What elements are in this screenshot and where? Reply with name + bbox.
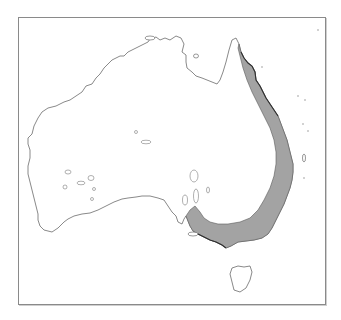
- lake-frome: [207, 187, 210, 193]
- lake-carnegie: [77, 181, 85, 185]
- lake-cowan: [91, 198, 94, 201]
- lake-eyre: [190, 170, 198, 182]
- reef-speck: [261, 66, 263, 68]
- lake-gairdner: [183, 195, 188, 205]
- lake-torrens: [194, 189, 199, 203]
- lake-mackay: [135, 131, 138, 134]
- reef-speck: [297, 95, 299, 97]
- reef-speck: [317, 29, 319, 31]
- melville-island: [145, 36, 155, 40]
- reef-speck: [307, 130, 309, 132]
- tasmania: [230, 266, 252, 292]
- fraser-island: [303, 154, 306, 162]
- lake-amadeus: [141, 140, 151, 144]
- lake-wells: [65, 170, 71, 174]
- lake-barlee: [63, 185, 67, 189]
- reef-speck: [304, 99, 306, 101]
- kangaroo-island: [188, 232, 198, 236]
- lake-ballard: [93, 188, 96, 191]
- australia-map: [0, 0, 341, 320]
- reef-speck: [302, 123, 304, 125]
- reef-speck: [303, 177, 305, 179]
- lake-disappointment: [88, 176, 94, 181]
- groote-eylandt: [194, 54, 199, 58]
